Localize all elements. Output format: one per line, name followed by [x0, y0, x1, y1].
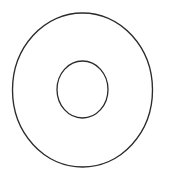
figure-canvas: [0, 0, 171, 180]
canvas-background: [0, 0, 171, 180]
concentric-rings-svg: [0, 0, 171, 180]
